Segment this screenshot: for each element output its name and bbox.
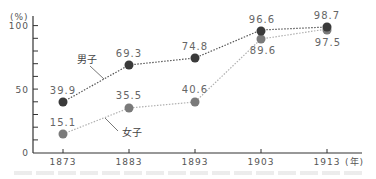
value-label-male-1903: 96.6	[249, 14, 275, 25]
x-tick-1883: 1883	[116, 157, 143, 167]
value-label-male-1913: 98.7	[314, 10, 340, 21]
y-tick-50: 50	[16, 85, 29, 95]
value-label-female-1883: 35.5	[116, 90, 142, 101]
x-tick-1873: 1873	[50, 157, 77, 167]
y-ticks	[33, 26, 38, 140]
value-label-male-1893: 74.8	[182, 41, 208, 52]
x-tick-1903: 1903	[248, 157, 275, 167]
x-tick-1893: 1893	[182, 157, 209, 167]
value-label-female-1873: 15.1	[50, 117, 76, 128]
line-chart: (%) 100 50 0 1873 1883 1893 1903 1913 (年…	[0, 0, 376, 179]
y-tick-100: 100	[9, 21, 29, 31]
value-label-female-1893: 40.6	[182, 84, 208, 95]
y-tick-0: 0	[22, 148, 29, 158]
faded-caption	[14, 171, 364, 175]
male-callout-line	[90, 66, 104, 79]
female-callout-line	[105, 118, 118, 131]
value-label-female-1903: 89.6	[250, 45, 276, 56]
x-tick-1913: 1913	[314, 157, 341, 167]
x-unit-label: (年)	[345, 156, 364, 167]
value-label-male-1883: 69.3	[116, 48, 142, 59]
series-label-male: 男子	[77, 54, 97, 65]
value-label-male-1873: 39.9	[50, 85, 76, 96]
series-label-female: 女子	[122, 126, 142, 138]
value-label-female-1913: 97.5	[315, 37, 341, 48]
